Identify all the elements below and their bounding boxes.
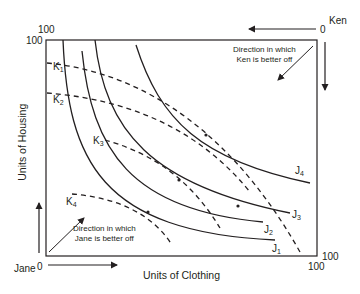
tick-100-top-outer: 100	[38, 25, 55, 35]
jane-note-line1: Direction in which	[73, 224, 136, 234]
ken-direction-note: Direction in which Ken is better off	[233, 45, 296, 65]
tangency-point	[177, 178, 180, 181]
jane-label: Jane	[14, 264, 36, 274]
jane-curve-j3	[95, 40, 290, 213]
tangency-point	[204, 133, 207, 136]
ken-note-line2: Ken is better off	[233, 55, 296, 65]
tick-100-right-inner: 100	[308, 262, 325, 272]
ken-curve-k2	[47, 93, 250, 192]
ken-origin: 0	[320, 25, 326, 35]
j1-label: J1	[272, 244, 281, 255]
k4-label: K4	[66, 197, 77, 208]
j4-label: J4	[295, 166, 304, 177]
ken-curve-k3	[105, 140, 220, 228]
jane-direction-note: Direction in which Jane is better off	[73, 224, 136, 244]
tangency-point	[236, 204, 239, 207]
k2-label: K2	[53, 95, 64, 106]
jane-origin: 0	[37, 262, 43, 272]
jane-curve-j4	[136, 45, 310, 183]
edgeworth-box-diagram	[0, 0, 360, 294]
tangency-point	[146, 210, 149, 213]
ken-label: Ken	[329, 16, 347, 26]
jane-note-line2: Jane is better off	[73, 234, 136, 244]
y-axis-label: Units of Housing	[17, 104, 28, 181]
x-axis-label: Units of Clothing	[143, 270, 220, 281]
j2-label: J2	[264, 225, 273, 236]
tick-100-top-inner: 100	[26, 36, 43, 46]
k1-label: K1	[53, 62, 64, 73]
ken-note-line1: Direction in which	[233, 45, 296, 55]
j3-label: J3	[292, 210, 301, 221]
k3-label: K3	[93, 136, 104, 147]
